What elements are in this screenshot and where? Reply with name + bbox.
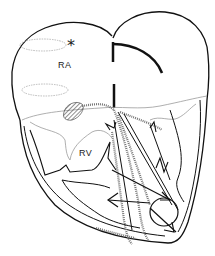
label-ra: RA	[58, 60, 72, 70]
right-atrium-outline	[12, 22, 112, 120]
ventricle-inner-outline	[24, 126, 165, 236]
rv-endocardium	[30, 130, 116, 175]
valve-arc	[113, 44, 162, 73]
label-rv: RV	[79, 148, 92, 158]
lv-wall-right	[170, 110, 184, 202]
heart-diagram	[0, 0, 215, 256]
asterisk-marker: *	[67, 38, 75, 54]
rv-cavity-gray-outline	[30, 122, 112, 160]
vena-cava-inferior-oval	[22, 84, 68, 96]
left-atrium-outline	[113, 12, 209, 100]
coronary-sinus-hatched	[63, 102, 83, 120]
vena-cava-superior-oval	[20, 39, 66, 51]
rv-lower-wall	[62, 180, 140, 228]
pathway-lines	[114, 112, 178, 230]
